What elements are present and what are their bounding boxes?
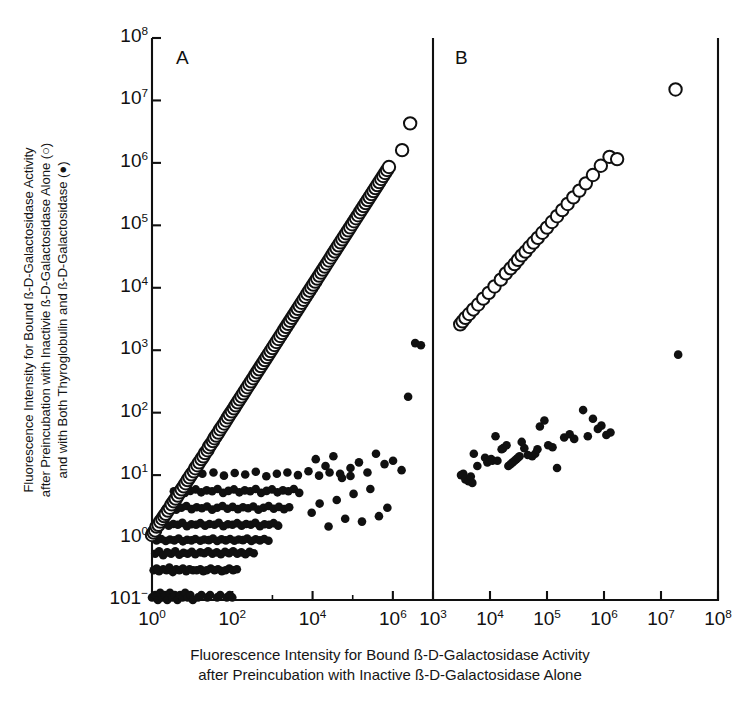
panel-b-data-points [454,83,682,487]
panel-letters: AB [176,47,468,68]
panel-a-data-points [146,117,425,604]
plot-frame [152,38,718,600]
panel-letter-b: B [455,47,468,68]
axis-ticks [152,38,718,600]
figure-container: Fluorescence Intensity for Bound ß-D-Gal… [0,0,747,712]
panel-letter-a: A [176,47,189,68]
scatter-plot: AB [0,0,747,712]
